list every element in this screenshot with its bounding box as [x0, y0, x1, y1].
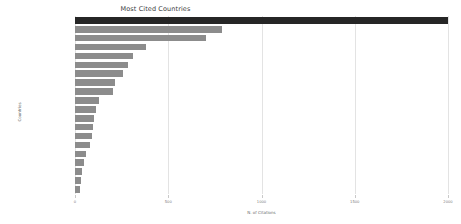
- plot-area: USAUNITED KINGDOMAUSTRALIANETHERLANDSAUS…: [75, 16, 448, 194]
- bar-row: CANADA: [75, 69, 448, 78]
- bar-row: PORTUGAL: [75, 132, 448, 141]
- bar-row: SPAIN: [75, 87, 448, 96]
- bar: [75, 106, 96, 113]
- tick-mark: [448, 195, 449, 198]
- bar-row: IRELAND: [75, 158, 448, 167]
- tick-mark: [355, 195, 356, 198]
- x-tick-label: 0: [74, 200, 76, 204]
- bar: [75, 186, 80, 193]
- bar: [75, 133, 92, 140]
- bar: [75, 88, 113, 95]
- y-axis-title: Countries: [17, 102, 22, 121]
- bar-row: ITALY: [75, 61, 448, 70]
- x-tick-label: 1000: [257, 200, 266, 204]
- bar: [75, 124, 93, 131]
- bar: [75, 177, 81, 184]
- bar-row: USA: [75, 16, 448, 25]
- bar: [75, 115, 94, 122]
- bar: [75, 151, 86, 158]
- bar-row: GREECE: [75, 176, 448, 185]
- bar-row: NORWAY: [75, 105, 448, 114]
- bar: [75, 79, 115, 86]
- chart-title: Most Cited Countries: [0, 5, 461, 13]
- bar-row: DENMARK: [75, 150, 448, 159]
- bar: [75, 97, 99, 104]
- bar: [75, 17, 448, 24]
- x-tick-label: 500: [165, 200, 172, 204]
- bar: [75, 142, 90, 149]
- bar-row: INDIA: [75, 185, 448, 194]
- bar-row: ISRAEL: [75, 141, 448, 150]
- x-axis-title: N. of Citations: [75, 210, 448, 215]
- tick-mark: [262, 195, 263, 198]
- chart-container: Most Cited Countries Countries USAUNITED…: [0, 0, 461, 224]
- bar: [75, 159, 84, 166]
- bar-row: AUSTRIA: [75, 52, 448, 61]
- tick-mark: [168, 195, 169, 198]
- x-tick-label: 2000: [443, 200, 452, 204]
- gridline: [448, 16, 449, 194]
- x-tick-label: 1500: [350, 200, 359, 204]
- bar-row: SWEDEN: [75, 114, 448, 123]
- bar: [75, 70, 123, 77]
- bar: [75, 44, 146, 51]
- bar: [75, 35, 206, 42]
- tick-mark: [75, 195, 76, 198]
- bar: [75, 62, 128, 69]
- bar-row: UNITED KINGDOM: [75, 25, 448, 34]
- bar-row: BRAZIL: [75, 167, 448, 176]
- bar-row: NETHERLANDS: [75, 43, 448, 52]
- bar-row: AUSTRALIA: [75, 34, 448, 43]
- bar-row: CHINA: [75, 78, 448, 87]
- bar-row: GERMANY: [75, 123, 448, 132]
- bar-row: SOUTH AFRICA: [75, 96, 448, 105]
- bar: [75, 53, 133, 60]
- bar: [75, 168, 82, 175]
- bar: [75, 26, 222, 33]
